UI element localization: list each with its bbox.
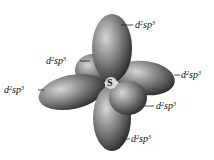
orbital-label-right: d2sp3 bbox=[181, 70, 201, 80]
center-atom-label: S bbox=[107, 77, 113, 88]
orbital-label-left: d2sp3 bbox=[4, 85, 24, 95]
orbital-label-bottom: d2sp3 bbox=[131, 134, 151, 144]
lobe-top bbox=[92, 14, 132, 82]
orbital-label-top: d2sp3 bbox=[135, 20, 155, 30]
orbital-label-lower-right: d2sp3 bbox=[156, 101, 176, 111]
orbital-label-upper-left: d2sp3 bbox=[46, 56, 66, 66]
